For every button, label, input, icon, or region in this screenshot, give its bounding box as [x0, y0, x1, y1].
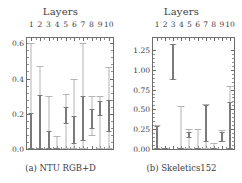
xtick-mark — [173, 38, 174, 41]
error-bar-stem — [30, 113, 32, 149]
ytick-mark-minor — [153, 58, 155, 59]
panel-a-plot-inner — [27, 38, 113, 149]
xtick-label-8: 8 — [89, 20, 94, 29]
ytick-mark — [153, 50, 156, 51]
xtick-mark — [222, 146, 223, 149]
xtick-mark — [40, 38, 41, 41]
panel-a-title: Layers — [0, 6, 121, 17]
ytick-mark-minor — [153, 105, 155, 106]
error-bar-stem — [39, 95, 41, 149]
ytick-mark-minor — [111, 64, 113, 65]
chart-panel-ntu-rgbd: Layers 12345678910 0.00.20.40.6 (a) NTU … — [0, 0, 121, 183]
ytick-mark — [231, 70, 234, 71]
ytick-mark-minor — [232, 82, 234, 83]
figure-panel-row: Layers 12345678910 0.00.20.40.6 (a) NTU … — [0, 0, 242, 183]
xtick-mark-minor — [87, 38, 88, 40]
ytick-label-0.50: 0.50 — [133, 105, 150, 114]
error-bar-cap-upper — [155, 126, 160, 127]
ytick-mark — [153, 109, 156, 110]
error-bar-cap-upper — [36, 66, 43, 67]
panel-b-title: Layers — [121, 6, 242, 17]
xtick-mark-minor — [70, 38, 71, 40]
xtick-label-7: 7 — [81, 20, 86, 29]
error-bar-cap-upper — [210, 143, 217, 144]
xtick-mark — [66, 38, 67, 41]
xtick-mark-minor — [218, 38, 219, 40]
ytick-label-0.6: 0.6 — [12, 39, 24, 48]
error-bar-inner-range-layer-10 — [103, 100, 113, 133]
error-bar-cap-upper — [45, 96, 52, 97]
ytick-mark — [153, 90, 156, 91]
error-bar-cap-upper — [227, 102, 232, 103]
error-bar-inner-range-layer-4 — [175, 148, 187, 149]
error-bar-cap-upper — [203, 105, 208, 106]
ytick-label-0.25: 0.25 — [133, 125, 150, 134]
ytick-mark-minor — [153, 86, 155, 87]
error-bar-cap-upper — [28, 43, 35, 44]
ytick-mark — [231, 50, 234, 51]
error-bar-cap-upper — [79, 43, 86, 44]
xtick-mark-minor — [161, 38, 162, 40]
xtick-mark — [173, 146, 174, 149]
ytick-mark-minor — [153, 66, 155, 67]
error-bar-cap-lower — [187, 137, 192, 138]
error-bar-cap-lower — [89, 128, 94, 129]
ytick-mark-minor — [153, 113, 155, 114]
error-bar-cap-upper — [80, 96, 85, 97]
xtick-mark-minor — [61, 38, 62, 40]
error-bar-cap-lower — [72, 143, 77, 144]
xtick-mark — [92, 38, 93, 41]
ytick-mark-minor — [153, 94, 155, 95]
xtick-label-1: 1 — [29, 20, 34, 29]
xtick-mark — [100, 38, 101, 41]
error-bar-inner-range-layer-1 — [153, 126, 163, 149]
xtick-label-7: 7 — [203, 20, 208, 29]
error-bar-cap-upper — [171, 44, 176, 45]
panel-b-plot-inner — [153, 38, 234, 149]
panel-b-xtick-labels: 12345678910 — [152, 20, 235, 31]
panel-a-plot-area — [26, 37, 114, 150]
error-bar-cap-upper — [63, 107, 68, 108]
xtick-label-4: 4 — [55, 20, 60, 29]
xtick-label-2: 2 — [38, 20, 43, 29]
xtick-mark — [189, 38, 190, 41]
error-bar-cap-lower — [171, 79, 176, 80]
xtick-mark-minor — [194, 38, 195, 40]
ytick-mark — [153, 70, 156, 71]
xtick-label-4: 4 — [179, 20, 184, 29]
xtick-label-5: 5 — [63, 20, 68, 29]
xtick-label-6: 6 — [72, 20, 77, 29]
xtick-mark — [74, 38, 75, 41]
ytick-mark — [110, 43, 113, 44]
error-bar-cap-upper — [226, 86, 233, 87]
ytick-mark-minor — [153, 62, 155, 63]
xtick-mark-minor — [53, 38, 54, 40]
panel-a-caption: (a) NTU RGB+D — [0, 163, 121, 173]
xtick-mark-minor — [210, 38, 211, 40]
ytick-mark-minor — [153, 117, 155, 118]
ytick-label-0.4: 0.4 — [12, 74, 24, 83]
xtick-mark — [222, 38, 223, 41]
ytick-mark-minor — [232, 74, 234, 75]
xtick-label-1: 1 — [155, 20, 160, 29]
xtick-mark — [157, 38, 158, 41]
error-bar-stem — [156, 126, 158, 149]
error-bar-cap-lower — [179, 148, 184, 149]
error-bar-inner-range-layer-4 — [51, 148, 63, 149]
error-bar-inner-range-layer-8 — [208, 148, 220, 149]
ytick-mark-minor — [153, 78, 155, 79]
error-bar-stem — [48, 131, 50, 149]
error-bar-inner-range-layer-3 — [167, 44, 179, 80]
error-bar-cap-lower — [80, 140, 85, 141]
error-bar-cap-upper — [105, 67, 112, 68]
error-bar-stem — [99, 101, 101, 116]
error-bar-cap-upper — [178, 106, 185, 107]
ytick-label-0.0: 0.0 — [12, 145, 24, 154]
error-bar-cap-lower — [105, 148, 112, 149]
error-bar-stem — [73, 116, 75, 143]
error-bar-stem — [82, 96, 84, 141]
xtick-mark — [109, 38, 110, 41]
xtick-label-2: 2 — [163, 20, 168, 29]
ytick-mark-minor — [153, 101, 155, 102]
xtick-label-9: 9 — [219, 20, 224, 29]
